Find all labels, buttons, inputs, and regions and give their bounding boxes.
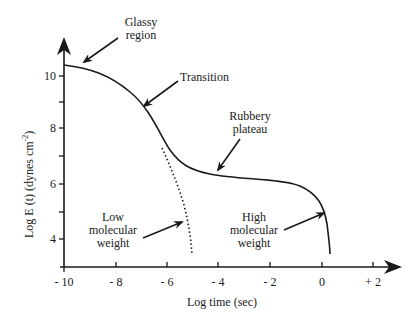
transition-label: Transition bbox=[180, 70, 229, 84]
low-mw-arrow-icon bbox=[143, 222, 182, 238]
x-tick-neg10: - 10 bbox=[55, 275, 74, 289]
svg-text:Low: Low bbox=[102, 210, 124, 224]
x-axis-label: Log time (sec) bbox=[187, 295, 257, 309]
svg-text:plateau: plateau bbox=[233, 122, 268, 136]
y-tick-6: 6 bbox=[50, 177, 56, 191]
svg-text:Glassy: Glassy bbox=[125, 15, 158, 29]
transition-arrow-icon bbox=[144, 81, 178, 106]
x-tick-neg8: - 8 bbox=[110, 275, 123, 289]
rubbery-plateau-label: Rubbery plateau bbox=[229, 109, 270, 136]
y-tick-8: 8 bbox=[50, 121, 56, 135]
svg-text:weight: weight bbox=[238, 236, 271, 250]
x-tick-0: 0 bbox=[319, 275, 325, 289]
high-mw-arrow-icon bbox=[284, 213, 324, 230]
svg-text:weight: weight bbox=[97, 236, 130, 250]
svg-text:molecular: molecular bbox=[230, 223, 278, 237]
high-molecular-weight-label: High molecular weight bbox=[230, 210, 278, 250]
y-tick-10: 10 bbox=[44, 69, 56, 83]
glassy-region-label: Glassy region bbox=[125, 15, 158, 42]
x-tick-neg2: - 2 bbox=[264, 275, 277, 289]
y-axis-label: Log E (t) (dynes cm-2) bbox=[21, 131, 36, 238]
x-tick-neg6: - 6 bbox=[161, 275, 174, 289]
svg-text:molecular: molecular bbox=[89, 223, 137, 237]
low-mw-curve bbox=[162, 148, 192, 255]
low-molecular-weight-label: Low molecular weight bbox=[89, 210, 137, 250]
glassy-arrow-icon bbox=[84, 38, 118, 62]
rubbery-arrow-icon bbox=[218, 139, 240, 170]
x-tick-neg4: - 4 bbox=[212, 275, 225, 289]
x-tick-pos2: + 2 bbox=[365, 275, 381, 289]
x-axis: - 10 - 8 - 6 - 4 - 2 0 + 2 Log time (sec… bbox=[55, 260, 403, 309]
svg-text:High: High bbox=[242, 210, 266, 224]
y-tick-4: 4 bbox=[50, 232, 56, 246]
viscoelastic-diagram: 10 8 6 4 Log E (t) (dynes cm-2) - 10 - 8… bbox=[0, 0, 420, 325]
svg-text:Rubbery: Rubbery bbox=[229, 109, 270, 123]
y-axis: 10 8 6 4 Log E (t) (dynes cm-2) bbox=[21, 37, 71, 267]
svg-text:region: region bbox=[126, 28, 157, 42]
